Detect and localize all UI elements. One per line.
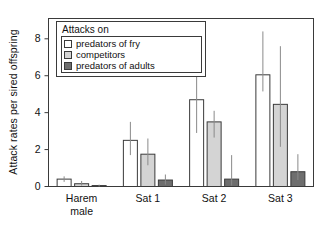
legend-title: Attacks on [62,24,202,35]
legend-label-predators-of-fry: predators of fry [76,39,140,49]
y-tick-label: 0 [25,180,41,192]
legend-label-predators-of-adults: predators of adults [76,61,155,71]
legend-label-competitors: competitors [76,50,125,60]
legend-swatch-predators-of-adults [64,62,72,70]
y-tick-label: 6 [25,69,41,81]
legend-item-predators-of-fry: predators of fry [64,38,199,49]
legend-swatch-predators-of-fry [64,40,72,48]
legend-swatch-competitors [64,51,72,59]
y-tick-label: 2 [25,143,41,155]
legend-entry-list: predators of fry competitors predators o… [61,36,202,73]
legend-item-competitors: competitors [64,49,199,60]
attack-rates-bar-chart: Attack rates per sired offspring Attacks… [0,0,327,229]
bar [256,75,270,187]
y-tick-label: 4 [25,106,41,118]
legend: Attacks on predators of fry competitors … [56,21,206,77]
legend-item-predators-of-adults: predators of adults [64,60,199,71]
y-tick-label: 8 [25,32,41,44]
x-tick-label: Sat 3 [240,192,320,204]
